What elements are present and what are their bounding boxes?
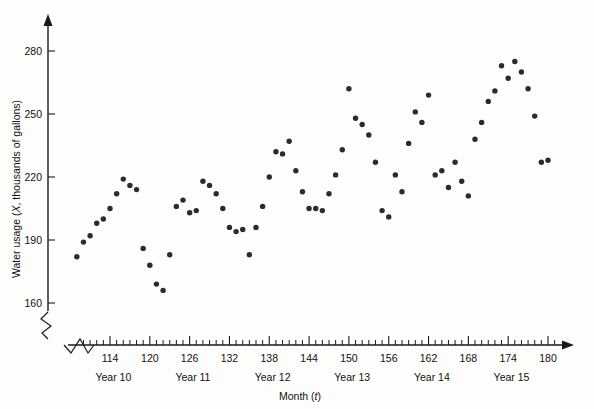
x-tick-label-174: 174 <box>499 352 517 364</box>
data-point <box>340 147 345 152</box>
data-point <box>472 137 477 142</box>
data-point <box>140 246 145 251</box>
x-tick-label-114: 114 <box>102 352 119 364</box>
data-point <box>519 69 524 74</box>
data-point <box>512 59 517 64</box>
data-point <box>459 179 464 184</box>
scatter-chart: 1601902202502801141201261321381441501561… <box>0 0 594 409</box>
year-group-label-5: Year 15 <box>494 371 530 383</box>
data-point <box>74 254 79 259</box>
data-point <box>293 168 298 173</box>
y-axis-arrow-icon <box>44 14 53 26</box>
x-tick-label-180: 180 <box>539 352 557 364</box>
data-point <box>227 225 232 230</box>
data-point <box>406 141 411 146</box>
data-point <box>174 204 179 209</box>
data-point <box>432 172 437 177</box>
x-tick-label-156: 156 <box>380 352 398 364</box>
data-point <box>532 113 537 118</box>
data-point <box>539 160 544 165</box>
data-point <box>413 109 418 114</box>
x-tick-label-138: 138 <box>261 352 279 364</box>
data-point <box>286 139 291 144</box>
year-group-label-0: Year 10 <box>95 371 131 383</box>
data-point <box>366 132 371 137</box>
data-point <box>393 172 398 177</box>
data-point <box>426 92 431 97</box>
data-point <box>81 239 86 244</box>
data-point <box>87 233 92 238</box>
data-point <box>134 187 139 192</box>
data-point <box>419 120 424 125</box>
data-point <box>114 191 119 196</box>
y-tick-label-190: 190 <box>24 234 42 246</box>
data-point <box>399 189 404 194</box>
x-axis-break-icon <box>64 339 94 353</box>
data-point <box>207 183 212 188</box>
year-group-label-3: Year 13 <box>334 371 370 383</box>
y-tick-label-280: 280 <box>24 45 42 57</box>
data-point <box>121 176 126 181</box>
data-point <box>160 288 165 293</box>
data-point <box>505 76 510 81</box>
data-point <box>333 172 338 177</box>
data-point <box>247 252 252 257</box>
y-tick-label-250: 250 <box>24 108 42 120</box>
data-point <box>94 221 99 226</box>
data-point <box>313 206 318 211</box>
data-point <box>466 193 471 198</box>
x-axis-arrow-icon <box>562 341 574 350</box>
data-point <box>386 214 391 219</box>
data-point <box>499 63 504 68</box>
data-point <box>300 189 305 194</box>
year-group-label-2: Year 12 <box>255 371 291 383</box>
data-point <box>545 158 550 163</box>
data-point <box>180 197 185 202</box>
data-point <box>379 208 384 213</box>
data-point <box>439 168 444 173</box>
year-group-label-4: Year 14 <box>414 371 450 383</box>
data-point <box>213 191 218 196</box>
data-point <box>253 225 258 230</box>
y-axis-break-icon <box>41 312 51 339</box>
data-point <box>101 216 106 221</box>
data-point <box>147 263 152 268</box>
data-point <box>240 227 245 232</box>
data-point <box>320 208 325 213</box>
data-point <box>273 149 278 154</box>
x-tick-label-120: 120 <box>141 352 159 364</box>
data-point <box>200 179 205 184</box>
data-point <box>479 120 484 125</box>
year-group-label-1: Year 11 <box>175 371 210 383</box>
data-point <box>260 204 265 209</box>
data-point <box>306 206 311 211</box>
data-point <box>167 252 172 257</box>
y-tick-label-160: 160 <box>24 297 42 309</box>
data-point <box>446 185 451 190</box>
data-point <box>220 206 225 211</box>
y-tick-label-220: 220 <box>24 171 42 183</box>
x-tick-label-150: 150 <box>340 352 358 364</box>
data-point-group <box>74 59 551 293</box>
data-point <box>154 281 159 286</box>
data-point <box>127 183 132 188</box>
data-point <box>525 86 530 91</box>
data-point <box>326 191 331 196</box>
data-point <box>486 99 491 104</box>
data-point <box>107 206 112 211</box>
x-tick-label-126: 126 <box>181 352 199 364</box>
data-point <box>267 174 272 179</box>
data-point <box>233 229 238 234</box>
x-tick-label-168: 168 <box>460 352 478 364</box>
data-point <box>373 160 378 165</box>
x-tick-label-132: 132 <box>221 352 239 364</box>
data-point <box>346 86 351 91</box>
data-point <box>280 151 285 156</box>
data-point <box>353 116 358 121</box>
y-axis-title: Water usage (X, thousands of gallons) <box>10 100 22 278</box>
data-point <box>187 210 192 215</box>
x-axis-title: Month (t) <box>279 390 321 402</box>
x-tick-label-144: 144 <box>300 352 318 364</box>
data-point <box>194 208 199 213</box>
data-point <box>359 122 364 127</box>
